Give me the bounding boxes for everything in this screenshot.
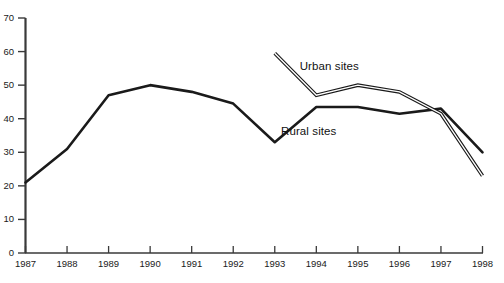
axes <box>25 18 483 253</box>
y-tick-label: 60 <box>0 47 14 57</box>
y-tick-label: 20 <box>0 181 14 191</box>
chart-plot-area <box>0 0 504 283</box>
y-axis-ticks <box>18 18 26 253</box>
y-tick-label: 10 <box>0 214 14 224</box>
x-tick-label: 1988 <box>50 259 84 269</box>
series-label-rural-sites: Rural sites <box>281 125 336 137</box>
x-tick-label: 1997 <box>424 259 458 269</box>
series-label-urban-sites: Urban sites <box>300 60 359 72</box>
x-tick-label: 1990 <box>133 259 167 269</box>
x-tick-label: 1992 <box>216 259 250 269</box>
y-tick-label: 40 <box>0 114 14 124</box>
x-tick-label: 1998 <box>466 259 500 269</box>
y-tick-label: 50 <box>0 80 14 90</box>
x-axis-ticks <box>26 246 483 253</box>
x-tick-label: 1996 <box>382 259 416 269</box>
x-tick-label: 1991 <box>175 259 209 269</box>
x-tick-label: 1995 <box>341 259 375 269</box>
y-tick-label: 0 <box>0 248 14 258</box>
x-tick-label: 1993 <box>258 259 292 269</box>
x-tick-label: 1994 <box>299 259 333 269</box>
x-tick-label: 1987 <box>9 259 43 269</box>
y-tick-label: 30 <box>0 147 14 157</box>
line-chart: 010203040506070 198719881989199019911992… <box>0 0 504 283</box>
y-tick-label: 70 <box>0 13 14 23</box>
x-tick-label: 1989 <box>92 259 126 269</box>
